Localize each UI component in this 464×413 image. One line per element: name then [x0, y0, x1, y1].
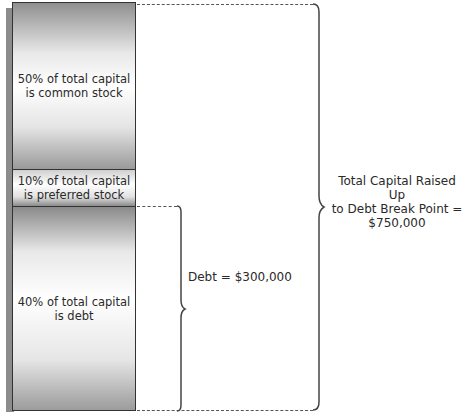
- total-label-line2: to Debt Break Point =: [330, 202, 464, 216]
- leader-debt-top: [137, 206, 177, 207]
- total-brace-icon: [312, 4, 328, 412]
- total-brace-label: Total Capital Raised Up to Debt Break Po…: [330, 174, 464, 230]
- segment-debt: 40% of total capital is debt: [12, 206, 136, 411]
- segment-label-line1: 50% of total capital: [18, 72, 131, 86]
- debt-brace-icon: [176, 206, 190, 412]
- segment-label-line1: 40% of total capital: [18, 295, 131, 309]
- segment-label-line1: 10% of total capital: [18, 174, 131, 188]
- leader-bottom: [137, 410, 313, 411]
- segment-label-line2: is preferred stock: [18, 188, 131, 202]
- segment-preferred-stock: 10% of total capital is preferred stock: [12, 169, 136, 207]
- segment-label-line2: is debt: [18, 309, 131, 323]
- debt-brace-label: Debt = $300,000: [188, 270, 292, 284]
- leader-top: [137, 4, 313, 5]
- total-label-line1: Total Capital Raised Up: [330, 174, 464, 202]
- segment-common-stock: 50% of total capital is common stock: [12, 2, 136, 170]
- segment-label-line2: is common stock: [18, 86, 131, 100]
- total-label-line3: $750,000: [330, 216, 464, 230]
